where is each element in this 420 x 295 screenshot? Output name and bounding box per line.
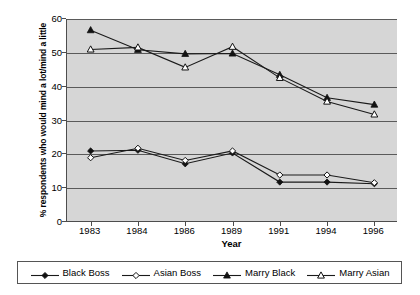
- y-tick-label: 30: [40, 116, 62, 126]
- data-point-open-diamond: [88, 155, 94, 161]
- y-tick-label: 40: [40, 82, 62, 92]
- x-tick-label: 1991: [259, 225, 299, 236]
- x-tick-label: 1983: [70, 225, 110, 236]
- legend-item-marry-black[interactable]: Marry Black: [212, 267, 295, 278]
- data-point-filled-diamond: [41, 272, 47, 278]
- x-tick-label: 1984: [117, 225, 157, 236]
- legend-label: Asian Boss: [154, 267, 202, 278]
- data-point-open-triangle: [229, 43, 236, 49]
- chart-legend: Black BossAsian BossMarry BlackMarry Asi…: [17, 261, 402, 284]
- y-tick-label: 60: [40, 14, 62, 24]
- y-axis-tick-labels: 0102030405060: [36, 19, 62, 222]
- series-layer: [67, 19, 398, 222]
- legend-marker-filled-triangle-icon: [212, 267, 242, 278]
- y-tick-label: 0: [40, 217, 62, 227]
- y-tick-label: 10: [40, 183, 62, 193]
- data-point-filled-diamond: [88, 148, 94, 154]
- series-marry-black: [87, 27, 378, 108]
- legend-item-black-boss[interactable]: Black Boss: [30, 267, 110, 278]
- y-tick-label: 20: [40, 149, 62, 159]
- data-point-open-diamond: [277, 172, 283, 178]
- x-tick-label: 1994: [306, 225, 346, 236]
- series-line: [91, 30, 375, 104]
- plot-area: [66, 19, 397, 222]
- legend-marker-open-triangle-icon: [306, 267, 336, 278]
- data-point-open-triangle: [135, 44, 142, 50]
- series-asian-boss: [88, 145, 378, 186]
- legend-label: Marry Black: [245, 267, 295, 278]
- data-point-open-diamond: [324, 172, 330, 178]
- series-line: [91, 47, 375, 115]
- y-tick-label: 50: [40, 48, 62, 58]
- data-point-open-diamond: [132, 272, 138, 278]
- data-point-filled-triangle: [87, 27, 94, 33]
- legend-label: Black Boss: [63, 267, 110, 278]
- x-tick-label: 1989: [212, 225, 252, 236]
- x-axis-title: Year: [66, 238, 397, 249]
- chart-figure: % respondents who would mind a lot/mind …: [0, 0, 420, 295]
- legend-marker-filled-diamond-icon: [30, 267, 60, 278]
- legend-label: Marry Asian: [339, 267, 389, 278]
- data-point-filled-diamond: [277, 179, 283, 185]
- data-point-filled-diamond: [324, 179, 330, 185]
- legend-item-marry-asian[interactable]: Marry Asian: [306, 267, 389, 278]
- x-tick-label: 1996: [353, 225, 393, 236]
- x-tick-label: 1986: [164, 225, 204, 236]
- legend-item-asian-boss[interactable]: Asian Boss: [121, 267, 202, 278]
- legend-marker-open-diamond-icon: [121, 267, 151, 278]
- x-axis-tick-labels: 1983198419861989199119941996: [66, 225, 397, 239]
